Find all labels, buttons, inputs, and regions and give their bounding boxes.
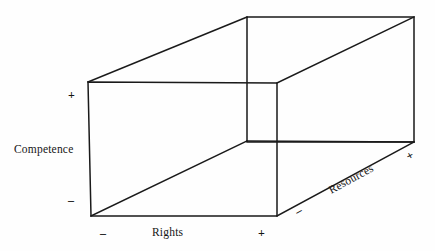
edge-back-bottom-interior xyxy=(247,141,414,142)
figure-canvas: Competence + – Rights – + Resources – + xyxy=(0,0,435,251)
front-face-edges xyxy=(88,82,277,216)
rights-axis-plus-sign: + xyxy=(258,227,265,239)
competence-axis-minus-sign: – xyxy=(68,194,74,206)
edge-front-tl-back-tl xyxy=(88,17,247,82)
edge-front-tr-back-tr xyxy=(277,17,414,83)
axis-label-rights: Rights xyxy=(152,227,183,239)
edge-front-bl-back-bl xyxy=(91,141,247,216)
back-face-edges xyxy=(247,17,414,142)
cube-wireframe xyxy=(0,0,435,251)
rights-axis-minus-sign: – xyxy=(100,227,106,239)
competence-axis-plus-sign: + xyxy=(68,89,75,101)
axis-label-competence: Competence xyxy=(14,144,73,156)
